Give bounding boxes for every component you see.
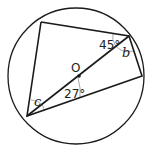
angle-label-27: 27° xyxy=(64,87,85,101)
angle-label-b: b xyxy=(122,45,130,60)
angle-label-45: 45° xyxy=(99,38,120,52)
circle xyxy=(8,8,144,144)
center-label: O xyxy=(71,61,80,75)
circle-diagram: O 45° b 27° c xyxy=(0,0,150,151)
angle-label-c: c xyxy=(34,94,42,109)
